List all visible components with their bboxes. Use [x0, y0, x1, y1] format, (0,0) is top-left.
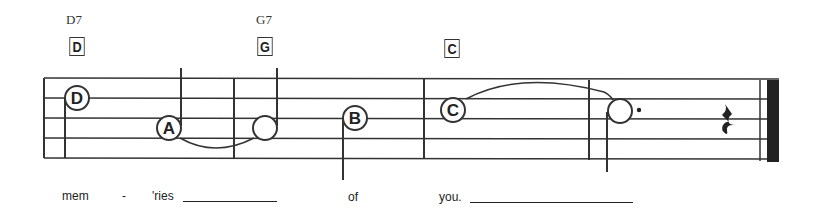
- svg-text:A: A: [163, 119, 175, 138]
- lyric-of: of: [348, 190, 358, 204]
- lyric-mem: mem: [62, 189, 89, 203]
- note-b: B: [343, 106, 367, 180]
- music-staff: D A B C: [0, 0, 815, 219]
- augmentation-dot: [637, 108, 641, 112]
- final-barline-thick: [767, 80, 779, 162]
- lyric-hyphen: -: [122, 189, 126, 203]
- svg-text:C: C: [447, 101, 459, 120]
- lyric-you: you.: [439, 190, 462, 204]
- lyric-extender-1: [183, 201, 277, 202]
- tie-c-to-dotted-half: [466, 83, 613, 100]
- svg-text:B: B: [349, 109, 361, 128]
- note-dotted-half: [607, 99, 641, 172]
- staff-lines: [44, 78, 779, 159]
- note-c: C: [441, 98, 465, 122]
- note-d: D: [65, 86, 89, 158]
- lyric-extender-2: [470, 202, 633, 203]
- tie-a-to-half: [180, 138, 254, 148]
- svg-text:D: D: [71, 89, 83, 108]
- lyric-ries: 'ries: [152, 189, 174, 203]
